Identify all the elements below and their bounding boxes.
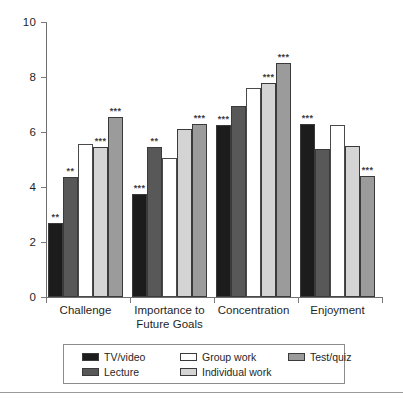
bar[interactable]: *** xyxy=(300,124,315,297)
bar[interactable]: *** xyxy=(132,194,147,297)
y-tick-label: 0 xyxy=(29,291,36,303)
legend-swatch xyxy=(180,368,197,376)
legend-swatch xyxy=(288,353,305,361)
bar[interactable] xyxy=(162,158,177,297)
legend-item[interactable]: Lecture xyxy=(82,366,180,378)
significance-marker: ** xyxy=(52,213,60,222)
legend-item[interactable]: Test/quiz xyxy=(288,351,364,363)
category-label: Enjoyment xyxy=(288,303,388,317)
bar[interactable]: ** xyxy=(147,147,162,297)
legend-swatch xyxy=(180,353,197,361)
bar[interactable]: *** xyxy=(276,63,291,297)
legend-label: Lecture xyxy=(104,366,139,378)
bar[interactable] xyxy=(246,88,261,297)
y-axis-line xyxy=(46,22,47,297)
legend-label: TV/video xyxy=(104,351,145,363)
significance-marker: *** xyxy=(95,137,107,146)
significance-marker: *** xyxy=(110,107,122,116)
bar[interactable]: *** xyxy=(261,83,276,298)
bar[interactable]: *** xyxy=(108,117,123,297)
bar[interactable]: *** xyxy=(360,176,375,297)
bar[interactable] xyxy=(315,149,330,298)
bar[interactable] xyxy=(177,129,192,297)
legend-label: Group work xyxy=(202,351,256,363)
y-tick-label: 4 xyxy=(29,181,36,193)
legend-swatch xyxy=(82,353,99,361)
significance-marker: ** xyxy=(67,167,75,176)
significance-marker: *** xyxy=(194,114,206,123)
significance-marker: *** xyxy=(278,53,290,62)
bar[interactable]: *** xyxy=(93,147,108,297)
significance-marker: *** xyxy=(263,73,275,82)
scan-artifact-rule xyxy=(0,392,403,393)
bar[interactable]: *** xyxy=(192,124,207,297)
legend-label: Individual work xyxy=(202,366,271,378)
bar[interactable]: ** xyxy=(63,177,78,297)
bar[interactable] xyxy=(78,144,93,297)
y-tick-label: 6 xyxy=(29,126,36,138)
legend-label: Test/quiz xyxy=(310,351,351,363)
bar-group: ******** xyxy=(132,22,207,297)
bar-group: ********* xyxy=(216,22,291,297)
significance-marker: *** xyxy=(218,115,230,124)
bar[interactable] xyxy=(231,106,246,297)
plot-area: 0246810 ********************************… xyxy=(47,22,382,297)
chart-legend: TV/videoGroup workTest/quizLectureIndivi… xyxy=(63,344,345,384)
y-tick: 6 xyxy=(41,132,47,133)
legend-grid: TV/videoGroup workTest/quizLectureIndivi… xyxy=(82,349,344,379)
significance-marker: ** xyxy=(151,137,159,146)
bar-group: ****** xyxy=(300,22,375,297)
significance-marker: *** xyxy=(362,166,374,175)
significance-marker: *** xyxy=(302,114,314,123)
y-tick: 4 xyxy=(41,187,47,188)
legend-item[interactable]: Individual work xyxy=(180,366,288,378)
legend-swatch xyxy=(82,368,99,376)
y-tick-label: 10 xyxy=(23,16,36,28)
bar-chart-figure: 0246810 ********************************… xyxy=(0,0,403,403)
bar[interactable] xyxy=(330,125,345,297)
y-tick: 10 xyxy=(41,22,47,23)
bar-group: ********** xyxy=(48,22,123,297)
y-tick-label: 8 xyxy=(29,71,36,83)
bar[interactable]: *** xyxy=(216,125,231,297)
significance-marker: *** xyxy=(134,184,146,193)
y-tick: 8 xyxy=(41,77,47,78)
legend-item[interactable]: TV/video xyxy=(82,351,180,363)
legend-item[interactable]: Group work xyxy=(180,351,288,363)
y-tick-label: 2 xyxy=(29,236,36,248)
bar[interactable]: ** xyxy=(48,223,63,297)
y-tick: 2 xyxy=(41,242,47,243)
bar[interactable] xyxy=(345,146,360,297)
